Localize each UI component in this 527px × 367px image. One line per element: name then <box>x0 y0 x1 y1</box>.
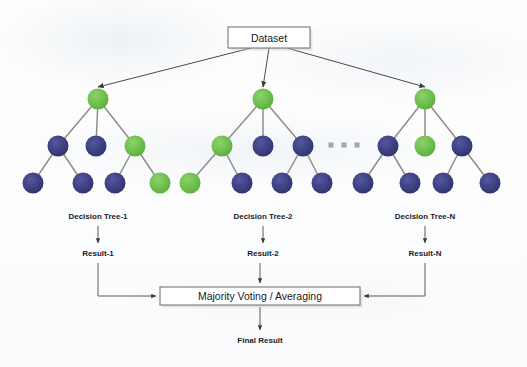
dataset-to-tree-2-arrow <box>263 48 269 87</box>
result-1-to-aggregate-arrow <box>98 263 156 296</box>
tree-1-mid-node-0 <box>48 136 69 157</box>
ellipsis-square-1 <box>342 143 347 148</box>
tree-n-leaf-node-1 <box>400 173 421 194</box>
tree-1-mid-node-2 <box>125 136 146 157</box>
tree-1-leaf-node-3 <box>150 173 171 194</box>
tree-n-result-label: Result-N <box>409 249 442 258</box>
tree-2-root-node <box>253 89 274 110</box>
result-n-to-aggregate-arrow <box>364 263 425 296</box>
tree-1-label: Decision Tree-1 <box>68 212 128 221</box>
tree-2-mid-node-0 <box>212 136 233 157</box>
tree-2-mid-node-1 <box>253 136 274 157</box>
tree-nodes-layer <box>23 89 501 194</box>
tree-1-leaf-node-2 <box>105 173 126 194</box>
tree-n-leaf-node-3 <box>480 173 501 194</box>
tree-1-root-node <box>88 89 109 110</box>
ellipsis-square-2 <box>355 143 360 148</box>
tree-n-mid-node-1 <box>415 136 436 157</box>
tree-2-leaf-node-0 <box>180 173 201 194</box>
tree-2-mid-node-2 <box>293 136 314 157</box>
boxes-layer <box>160 27 363 308</box>
tree-2-leaf-node-2 <box>272 173 293 194</box>
tree-n-label: Decision Tree-N <box>395 212 456 221</box>
aggregate-box-label: Majority Voting / Averaging <box>198 290 322 302</box>
tree-1-result-label: Result-1 <box>82 249 114 258</box>
ellipsis-layer <box>329 143 360 148</box>
tree-1-leaf-node-0 <box>23 173 44 194</box>
tree-2-leaf-node-3 <box>312 173 333 194</box>
tree-n-mid-node-2 <box>452 136 473 157</box>
dataset-to-tree-1-arrow <box>98 48 251 87</box>
tree-2-leaf-node-1 <box>232 173 253 194</box>
dataset-box-label: Dataset <box>251 32 287 44</box>
ellipsis-square-0 <box>329 143 334 148</box>
tree-2-result-label: Result-2 <box>247 249 279 258</box>
tree-n-leaf-node-2 <box>433 173 454 194</box>
tree-2-label: Decision Tree-2 <box>233 212 293 221</box>
final-result-label: Final Result <box>237 336 283 345</box>
tree-1-leaf-node-1 <box>73 173 94 194</box>
tree-n-root-node <box>415 89 436 110</box>
tree-n-mid-node-0 <box>378 136 399 157</box>
tree-n-leaf-node-0 <box>353 173 374 194</box>
dataset-to-tree-n-arrow <box>287 48 425 87</box>
diagram-canvas: Decision Tree-1Result-1Decision Tree-2Re… <box>0 0 527 367</box>
random-forest-diagram: Decision Tree-1Result-1Decision Tree-2Re… <box>0 0 527 367</box>
labels-layer: Decision Tree-1Result-1Decision Tree-2Re… <box>68 32 455 346</box>
tree-1-mid-node-1 <box>86 136 107 157</box>
